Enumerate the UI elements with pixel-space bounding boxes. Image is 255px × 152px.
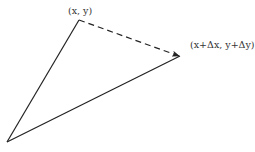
dashed-arrow-top-to-right <box>79 20 179 56</box>
top-vertex-label: (x, y) <box>68 5 92 16</box>
triangle-diagram: (x, y) (x+Δx, y+Δy) <box>0 0 255 152</box>
right-vertex-label: (x+Δx, y+Δy) <box>190 39 255 50</box>
